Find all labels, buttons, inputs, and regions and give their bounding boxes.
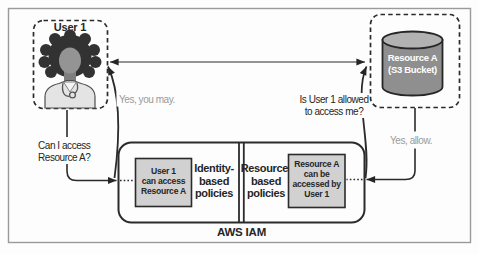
resource-statement-line1: Resource A [294,159,339,169]
resource-statement-line3: accessed by [293,179,342,189]
identity-policy-statement: User 1 can access Resource A [136,159,192,207]
svg-text:policies: policies [247,187,285,199]
svg-text:Identity-: Identity- [194,162,234,174]
avatar-face [59,48,81,74]
identity-statement-line3: Resource A [141,186,186,196]
identity-statement-line2: can access [142,176,186,186]
svg-text:Resource A?: Resource A? [38,152,91,163]
iam-policy-diagram: User 1 [0,0,479,254]
svg-text:Yes, you may.: Yes, you may. [119,94,175,105]
diagram-canvas: User 1 [0,0,479,254]
grant-user-label: Yes, you may. [117,93,182,107]
aws-iam-label: AWS IAM [217,226,266,238]
svg-text:policies: policies [195,187,233,199]
resource-statement-line2: can be [304,169,330,179]
svg-text:based: based [251,175,281,187]
svg-text:to access me?: to access me? [305,106,365,117]
svg-text:based: based [199,175,229,187]
resource-label-line2: (S3 Bucket) [388,64,437,75]
resource-node: Resource A (S3 Bucket) [371,15,460,108]
grant-resource-label: Yes, allow. [385,132,439,149]
svg-text:Resource-: Resource- [241,162,292,174]
cylinder-top [383,32,443,49]
user-question-label: Can I access Resource A? [36,137,98,164]
resource-policy-statement: Resource A can be accessed by User 1 [289,155,346,208]
svg-text:Is User 1 allowed: Is User 1 allowed [299,94,368,105]
svg-text:Can I access: Can I access [38,140,91,151]
user-node: User 1 [34,21,108,109]
identity-policy-label: Identity- based policies [194,162,234,199]
svg-text:Yes, allow.: Yes, allow. [390,135,432,146]
resource-question-label: Is User 1 allowed to access me? [299,93,368,118]
identity-statement-line1: User 1 [151,166,176,176]
resource-statement-line4: User 1 [304,189,329,199]
resource-label-line1: Resource A [388,52,438,63]
